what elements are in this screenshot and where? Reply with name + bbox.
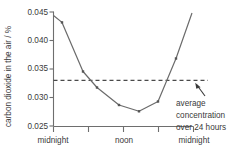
data-point-4 xyxy=(118,104,120,106)
x-tick-label-noon: noon xyxy=(115,136,134,145)
data-point-5 xyxy=(138,110,140,112)
data-point-1 xyxy=(61,21,63,23)
y-tick-label-4: 0.045 xyxy=(28,8,49,17)
annotation-line-3: over 24 hours xyxy=(176,123,226,132)
co2-line-chart: carbon dioxide in the air / % 0.025 0.03… xyxy=(0,0,234,157)
data-point-2 xyxy=(82,70,84,72)
y-tick-label-2: 0.035 xyxy=(28,64,49,73)
data-point-7 xyxy=(175,57,177,59)
annotation-line-2: concentration xyxy=(176,111,226,120)
data-point-3 xyxy=(96,86,98,88)
x-tick-label-midnight-start: midnight xyxy=(38,136,70,145)
co2-series-line xyxy=(54,13,193,111)
annotation-arrow-head xyxy=(195,83,200,89)
y-tick-label-1: 0.030 xyxy=(28,93,49,102)
x-tick-label-midnight-end: midnight xyxy=(179,136,211,145)
data-point-6 xyxy=(157,100,159,102)
y-tick-label-3: 0.040 xyxy=(28,36,49,45)
chart-canvas: carbon dioxide in the air / % 0.025 0.03… xyxy=(0,0,234,157)
y-tick-label-0: 0.025 xyxy=(28,122,49,131)
y-axis-title: carbon dioxide in the air / % xyxy=(4,26,13,127)
annotation-line-1: average xyxy=(176,99,206,108)
